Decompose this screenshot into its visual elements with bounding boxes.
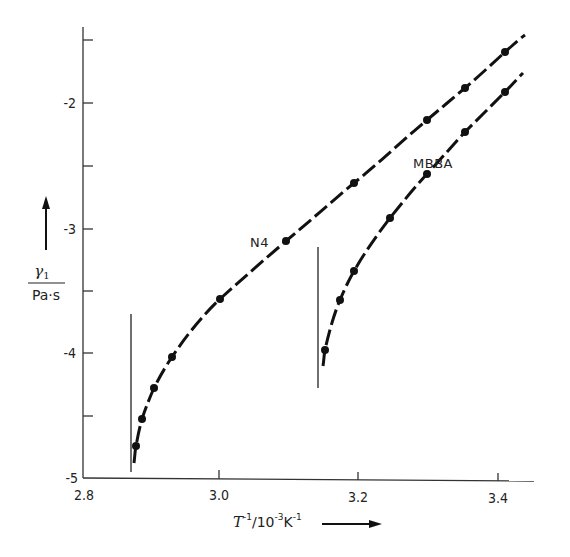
- viscosity-chart: -2 -3 -4 -5 2.8 3.0 3.2 3.4 γ1 Pa·s T-1/…: [0, 0, 570, 557]
- y-axis: [83, 27, 93, 478]
- svg-text:Pa·s: Pa·s: [32, 287, 60, 303]
- y-tick-label: -3: [63, 221, 76, 237]
- arrow-right-icon: [369, 520, 382, 528]
- y-tick-label: -4: [63, 345, 76, 361]
- y-tick-label: -2: [63, 95, 76, 111]
- y-tick-label: -5: [65, 470, 78, 486]
- x-tick-label: 3.2: [348, 489, 368, 505]
- series-label-mbba: MBBA: [413, 156, 453, 171]
- y-axis-label: γ1 Pa·s: [28, 196, 65, 303]
- x-tick-label: 3.0: [209, 487, 229, 503]
- n4-data-points: [132, 48, 509, 450]
- arrow-up-icon: [42, 196, 50, 209]
- svg-text:γ1: γ1: [34, 262, 49, 281]
- series-label-n4: N4: [250, 235, 269, 250]
- x-axis: [83, 470, 534, 481]
- x-axis-label: T-1/10-3K-1: [233, 512, 382, 531]
- mbba-data-points: [321, 88, 509, 354]
- series-n4: [132, 35, 525, 463]
- svg-text:T-1/10-3K-1: T-1/10-3K-1: [233, 512, 302, 531]
- x-tick-label: 2.8: [74, 487, 94, 503]
- x-tick-label: 3.4: [488, 490, 508, 506]
- series-mbba: [321, 73, 523, 366]
